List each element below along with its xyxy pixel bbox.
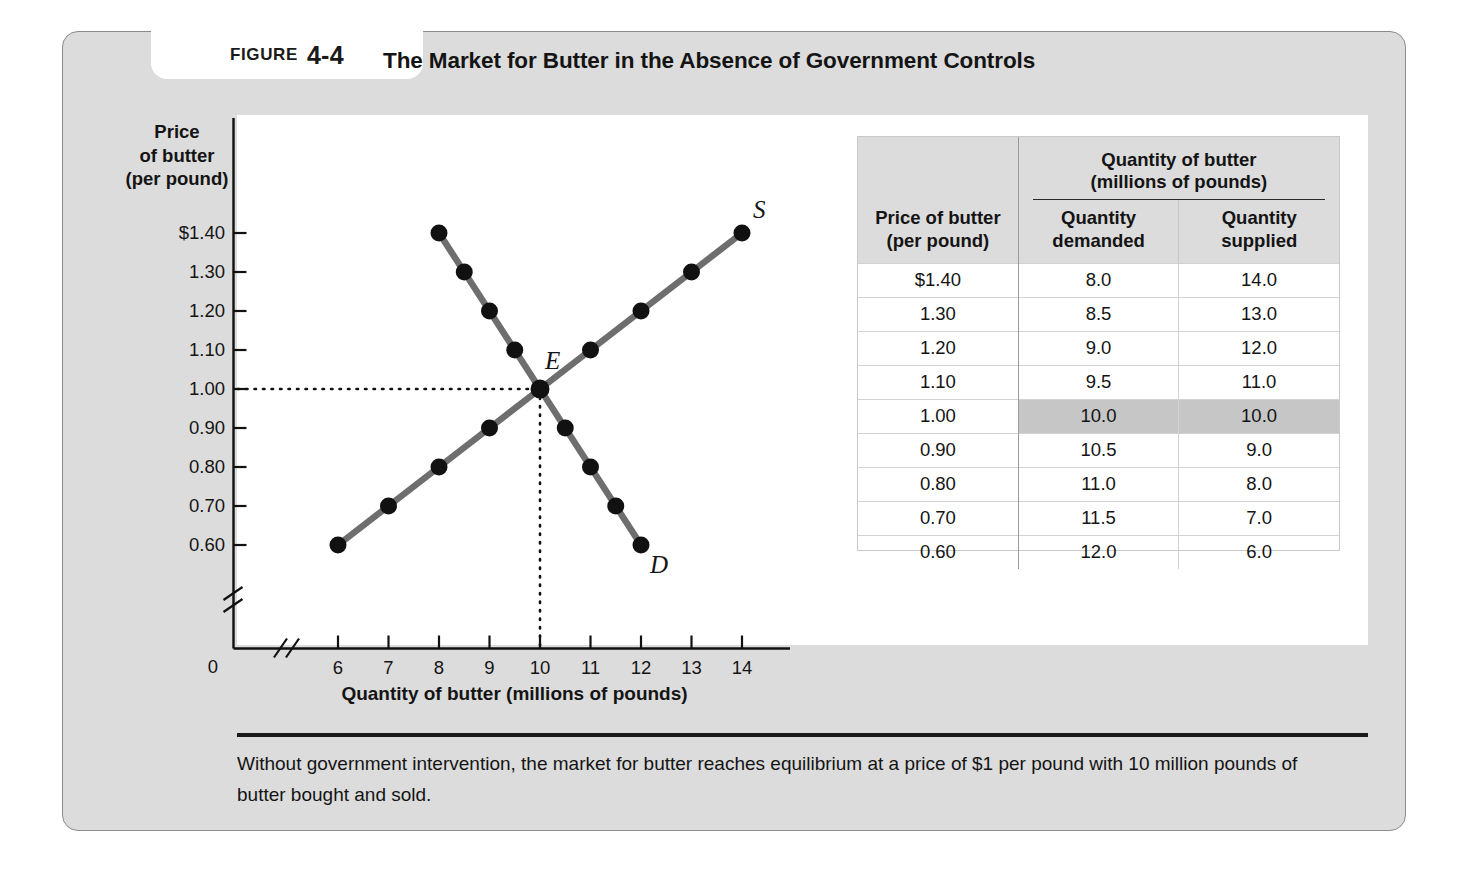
header-quantity-demanded: Quantity demanded bbox=[1019, 200, 1180, 262]
header-price-of-butter: Price of butter (per pound) bbox=[858, 137, 1018, 263]
cell-supplied: 8.0 bbox=[1179, 467, 1339, 501]
cell-price: 1.00 bbox=[858, 399, 1018, 433]
cell-supplied: 6.0 bbox=[1179, 535, 1339, 569]
y-axis-tick-label: 1.30 bbox=[120, 261, 225, 283]
x-axis-tick-label: 9 bbox=[465, 657, 515, 679]
table-row: 0.7011.57.0 bbox=[858, 501, 1339, 535]
table-header-row: Price of butter (per pound) Quantity of … bbox=[858, 137, 1339, 263]
y-axis-tick-label: 1.10 bbox=[120, 339, 225, 361]
cell-demanded: 8.0 bbox=[1018, 263, 1178, 297]
y-axis-title-line2: of butter bbox=[118, 144, 236, 168]
x-axis-tick-label: 13 bbox=[667, 657, 717, 679]
header-quantity-group-text: Quantity of butter (millions of pounds) bbox=[1019, 137, 1339, 199]
cell-demanded: 12.0 bbox=[1018, 535, 1178, 569]
x-axis-title: Quantity of butter (millions of pounds) bbox=[237, 683, 792, 705]
figure-title: The Market for Butter in the Absence of … bbox=[383, 48, 1035, 74]
cell-supplied: 9.0 bbox=[1179, 433, 1339, 467]
cell-demanded: 9.0 bbox=[1018, 331, 1178, 365]
header-price-line2: (per pound) bbox=[858, 230, 1018, 252]
table-row: 0.6012.06.0 bbox=[858, 535, 1339, 569]
table: Price of butter (per pound) Quantity of … bbox=[858, 137, 1339, 569]
cell-price: 1.10 bbox=[858, 365, 1018, 399]
cell-price: 0.60 bbox=[858, 535, 1018, 569]
table-row: 1.209.012.0 bbox=[858, 331, 1339, 365]
table-row: 1.0010.010.0 bbox=[858, 399, 1339, 433]
cell-supplied: 14.0 bbox=[1179, 263, 1339, 297]
cell-price: 1.20 bbox=[858, 331, 1018, 365]
figure-caption: Without government intervention, the mar… bbox=[237, 749, 1327, 811]
header-quantity-line1: Quantity of butter bbox=[1019, 149, 1339, 171]
cell-supplied: 10.0 bbox=[1179, 399, 1339, 433]
header-quantity-subcolumns: Quantity demanded Quantity supplied bbox=[1019, 200, 1339, 262]
header-quantity-supplied: Quantity supplied bbox=[1179, 200, 1339, 262]
demand-curve-label: D bbox=[650, 551, 668, 579]
cell-demanded: 10.0 bbox=[1018, 399, 1178, 433]
cell-price: 0.80 bbox=[858, 467, 1018, 501]
figure-tag-word: FIGURE bbox=[230, 45, 298, 65]
cell-demanded: 8.5 bbox=[1018, 297, 1178, 331]
x-axis-tick-label: 11 bbox=[566, 657, 616, 679]
chart-plot-background bbox=[237, 115, 790, 645]
caption-divider bbox=[237, 733, 1368, 737]
table-row: $1.408.014.0 bbox=[858, 263, 1339, 297]
header-quantity-group: Quantity of butter (millions of pounds) … bbox=[1018, 137, 1339, 263]
equilibrium-point-label: E bbox=[545, 347, 560, 375]
figure-tag-number: 4-4 bbox=[307, 41, 344, 70]
cell-supplied: 12.0 bbox=[1179, 331, 1339, 365]
cell-price: 0.70 bbox=[858, 501, 1018, 535]
cell-demanded: 10.5 bbox=[1018, 433, 1178, 467]
y-axis-title-line3: (per pound) bbox=[118, 167, 236, 191]
x-axis-tick-label: 6 bbox=[313, 657, 363, 679]
y-axis-tick-label: 0.80 bbox=[120, 456, 225, 478]
header-price-line1: Price of butter bbox=[858, 207, 1018, 229]
table-body: $1.408.014.01.308.513.01.209.012.01.109.… bbox=[858, 263, 1339, 569]
table-row: 0.9010.59.0 bbox=[858, 433, 1339, 467]
cell-price: $1.40 bbox=[858, 263, 1018, 297]
cell-demanded: 11.5 bbox=[1018, 501, 1178, 535]
header-demanded-line1: Quantity bbox=[1019, 207, 1179, 229]
cell-demanded: 11.0 bbox=[1018, 467, 1178, 501]
cell-supplied: 7.0 bbox=[1179, 501, 1339, 535]
x-axis-tick-label: 10 bbox=[515, 657, 565, 679]
x-axis-tick-label: 7 bbox=[364, 657, 414, 679]
supply-curve-label: S bbox=[753, 196, 766, 224]
table-row: 1.308.513.0 bbox=[858, 297, 1339, 331]
y-axis-tick-label: 1.00 bbox=[120, 378, 225, 400]
y-axis-title: Price of butter (per pound) bbox=[118, 120, 236, 191]
header-supplied-line2: supplied bbox=[1179, 230, 1339, 252]
header-supplied-line1: Quantity bbox=[1179, 207, 1339, 229]
y-axis-tick-label: 0.90 bbox=[120, 417, 225, 439]
table-row: 0.8011.08.0 bbox=[858, 467, 1339, 501]
y-axis-tick-label: 0.70 bbox=[120, 495, 225, 517]
y-axis-tick-label: $1.40 bbox=[120, 222, 225, 244]
cell-supplied: 11.0 bbox=[1179, 365, 1339, 399]
cell-demanded: 9.5 bbox=[1018, 365, 1178, 399]
x-axis-tick-label: 12 bbox=[616, 657, 666, 679]
y-axis-title-line1: Price bbox=[118, 120, 236, 144]
cell-price: 1.30 bbox=[858, 297, 1018, 331]
y-axis-tick-label: 0.60 bbox=[120, 534, 225, 556]
table-row: 1.109.511.0 bbox=[858, 365, 1339, 399]
header-quantity-line2: (millions of pounds) bbox=[1019, 171, 1339, 193]
table-head: Price of butter (per pound) Quantity of … bbox=[858, 137, 1339, 263]
cell-price: 0.90 bbox=[858, 433, 1018, 467]
x-axis-tick-label: 8 bbox=[414, 657, 464, 679]
x-axis-tick-label: 14 bbox=[717, 657, 767, 679]
y-axis-tick-label: 1.20 bbox=[120, 300, 225, 322]
header-demanded-line2: demanded bbox=[1019, 230, 1179, 252]
supply-demand-table: Price of butter (per pound) Quantity of … bbox=[857, 136, 1340, 551]
cell-supplied: 13.0 bbox=[1179, 297, 1339, 331]
x-axis-origin-label: 0 bbox=[193, 656, 233, 678]
